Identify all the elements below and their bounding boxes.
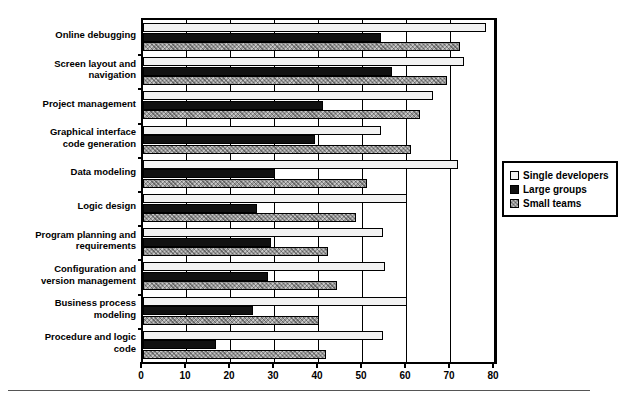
bar-large: [143, 238, 271, 247]
legend-swatch-small: [510, 199, 519, 208]
bar-group: [143, 328, 495, 362]
bar-large: [143, 340, 216, 349]
x-axis-tick: [184, 362, 186, 368]
legend-label: Large groups: [523, 184, 587, 195]
bar-small: [143, 145, 411, 154]
category-label-line: requirements: [0, 240, 136, 252]
category-label-line: Screen layout and: [0, 58, 136, 70]
legend-label: Small teams: [523, 198, 581, 209]
bar-large: [143, 169, 275, 178]
x-axis-tick-label: 20: [214, 370, 244, 381]
category-label-line: code generation: [0, 138, 136, 150]
bar-single: [143, 91, 433, 100]
category-label: Graphical interfacecode generation: [0, 126, 136, 149]
category-label-line: Program planning and: [0, 229, 136, 241]
legend-swatch-large: [510, 185, 519, 194]
x-axis-tick-label: 70: [434, 370, 464, 381]
legend-item: Single developers: [510, 168, 609, 182]
x-axis-tick-label: 50: [346, 370, 376, 381]
category-label-line: Logic design: [0, 200, 136, 212]
y-axis-tick: [138, 225, 143, 227]
bar-small: [143, 179, 367, 188]
category-label-line: Business process: [0, 297, 136, 309]
x-axis-tick-label: 80: [478, 370, 508, 381]
bar-single: [143, 57, 464, 66]
bar-single: [143, 262, 385, 271]
bar-large: [143, 306, 253, 315]
bar-group: [143, 259, 495, 293]
category-label-line: Online debugging: [0, 29, 136, 41]
bar-chart: Online debuggingScreen layout andnavigat…: [0, 0, 637, 402]
bar-small: [143, 350, 326, 359]
category-label-line: Data modeling: [0, 166, 136, 178]
category-label: Business processmodeling: [0, 297, 136, 320]
bar-small: [143, 281, 337, 290]
bar-single: [143, 23, 486, 32]
bar-group: [143, 191, 495, 225]
x-axis-tick-label: 30: [258, 370, 288, 381]
x-axis-tick: [316, 362, 318, 368]
category-label-line: modeling: [0, 309, 136, 321]
y-axis-tick: [138, 157, 143, 159]
bar-small: [143, 213, 356, 222]
bar-large: [143, 135, 315, 144]
bar-single: [143, 126, 381, 135]
x-axis-tick-label: 10: [170, 370, 200, 381]
x-axis-tick: [448, 362, 450, 368]
category-label: Screen layout andnavigation: [0, 58, 136, 81]
y-axis-tick: [138, 88, 143, 90]
legend: Single developersLarge groupsSmall teams: [502, 161, 618, 217]
legend-item: Small teams: [510, 196, 609, 210]
bar-single: [143, 297, 407, 306]
plot-area: [141, 18, 497, 364]
x-axis-tick: [492, 362, 494, 368]
bar-group: [143, 225, 495, 259]
category-label: Procedure and logiccode: [0, 331, 136, 354]
bar-large: [143, 67, 392, 76]
bar-group: [143, 294, 495, 328]
bar-large: [143, 101, 323, 110]
x-axis-tick-label: 60: [390, 370, 420, 381]
x-axis-tick-label: 0: [126, 370, 156, 381]
x-axis-tick: [140, 362, 142, 368]
bar-single: [143, 160, 458, 169]
category-label: Configuration andversion management: [0, 263, 136, 286]
category-label: Data modeling: [0, 166, 136, 178]
x-axis-tick: [228, 362, 230, 368]
y-axis-tick: [138, 123, 143, 125]
bar-small: [143, 42, 460, 51]
category-label-line: navigation: [0, 69, 136, 81]
category-label: Logic design: [0, 200, 136, 212]
category-label-line: code: [0, 343, 136, 355]
footer-divider: [8, 390, 590, 391]
category-label: Project management: [0, 98, 136, 110]
bar-large: [143, 33, 381, 42]
category-label: Program planning andrequirements: [0, 229, 136, 252]
bar-small: [143, 247, 328, 256]
bar-single: [143, 331, 383, 340]
y-axis-tick: [138, 54, 143, 56]
bar-small: [143, 76, 447, 85]
x-axis-tick: [360, 362, 362, 368]
bar-group: [143, 157, 495, 191]
legend-item: Large groups: [510, 182, 609, 196]
y-axis-tick: [138, 191, 143, 193]
bar-single: [143, 228, 383, 237]
bar-single: [143, 194, 407, 203]
x-axis-tick: [404, 362, 406, 368]
x-axis-tick: [272, 362, 274, 368]
bar-group: [143, 54, 495, 88]
category-label-line: Project management: [0, 98, 136, 110]
legend-swatch-single: [510, 171, 519, 180]
bar-large: [143, 272, 268, 281]
bar-small: [143, 110, 420, 119]
bar-large: [143, 204, 257, 213]
category-label: Online debugging: [0, 29, 136, 41]
category-label-line: Graphical interface: [0, 126, 136, 138]
category-label-line: Configuration and: [0, 263, 136, 275]
bar-small: [143, 316, 319, 325]
category-label-line: Procedure and logic: [0, 331, 136, 343]
y-axis-tick: [138, 328, 143, 330]
y-axis-tick: [138, 259, 143, 261]
category-label-line: version management: [0, 275, 136, 287]
